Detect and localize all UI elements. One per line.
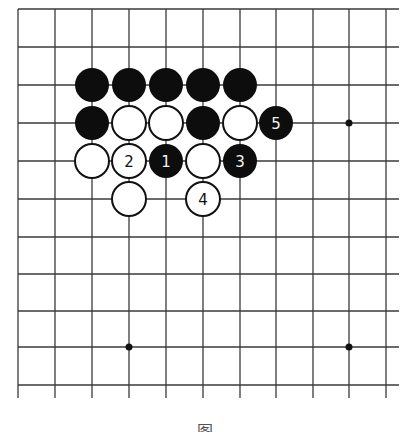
move-number: 5: [271, 115, 281, 133]
white-stone-icon: [75, 144, 109, 178]
black-stone: [149, 68, 183, 102]
black-stone-icon: [149, 68, 183, 102]
black-stone-icon: [75, 68, 109, 102]
white-stone: [149, 106, 183, 140]
white-stone-icon: [149, 106, 183, 140]
move-number: 2: [124, 153, 134, 171]
stones: 52134: [75, 68, 293, 216]
black-stone: [223, 68, 257, 102]
star-point-icon: [346, 120, 353, 127]
black-stone: [75, 68, 109, 102]
black-stone-icon: [186, 106, 220, 140]
white-stone-icon: [223, 106, 257, 140]
black-stone: 1: [149, 144, 183, 178]
white-stone: 2: [112, 144, 146, 178]
go-board: 52134: [0, 0, 409, 432]
black-stone-icon: [112, 68, 146, 102]
white-stone: [112, 106, 146, 140]
white-stone: [75, 144, 109, 178]
black-stone: 3: [223, 144, 257, 178]
black-stone: 5: [259, 106, 293, 140]
star-point-icon: [346, 344, 353, 351]
white-stone: [223, 106, 257, 140]
black-stone: [186, 68, 220, 102]
white-stone: 4: [186, 182, 220, 216]
black-stone-icon: [186, 68, 220, 102]
black-stone: [75, 106, 109, 140]
move-number: 3: [235, 153, 245, 171]
white-stone: [112, 182, 146, 216]
black-stone: [186, 106, 220, 140]
white-stone-icon: [112, 106, 146, 140]
white-stone-icon: [112, 182, 146, 216]
black-stone-icon: [223, 68, 257, 102]
diagram-caption: 图: [0, 418, 409, 432]
move-number: 4: [198, 191, 208, 209]
white-stone: [186, 144, 220, 178]
black-stone-icon: [75, 106, 109, 140]
move-number: 1: [161, 153, 171, 171]
star-point-icon: [126, 344, 133, 351]
white-stone-icon: [186, 144, 220, 178]
black-stone: [112, 68, 146, 102]
